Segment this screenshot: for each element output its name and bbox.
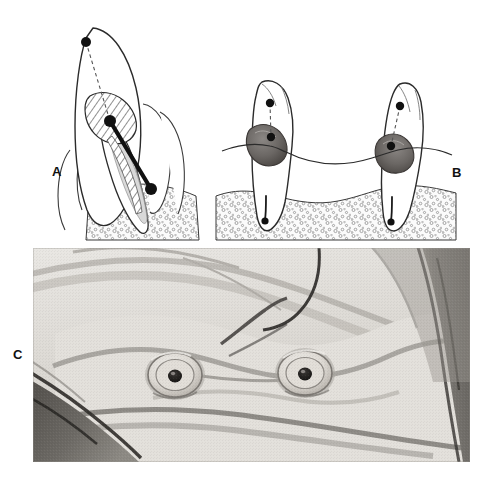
panel-c-photograph: [33, 248, 470, 462]
panel-b-left-lesion-dot: [267, 133, 275, 141]
panel-a-incisal-reference-dot: [81, 37, 91, 47]
panel-a-drawing: [58, 28, 199, 240]
panel-b-right-crown-dot: [396, 102, 404, 110]
panel-a-core-reference-dot: [104, 115, 116, 127]
panel-b-alveolar-bone: [216, 186, 456, 240]
panel-b-right-lesion-dot: [387, 142, 395, 150]
panel-label-b: B: [452, 166, 461, 179]
panel-a-post-apex-reference-dot: [145, 183, 157, 195]
panel-label-a: A: [52, 165, 61, 178]
panel-b-drawing: [216, 81, 456, 240]
photo-grain-overlay: [33, 248, 470, 462]
panel-label-c: C: [13, 348, 22, 361]
figure-root: A B C: [0, 0, 498, 479]
panel-b-left-crown-dot: [266, 99, 274, 107]
